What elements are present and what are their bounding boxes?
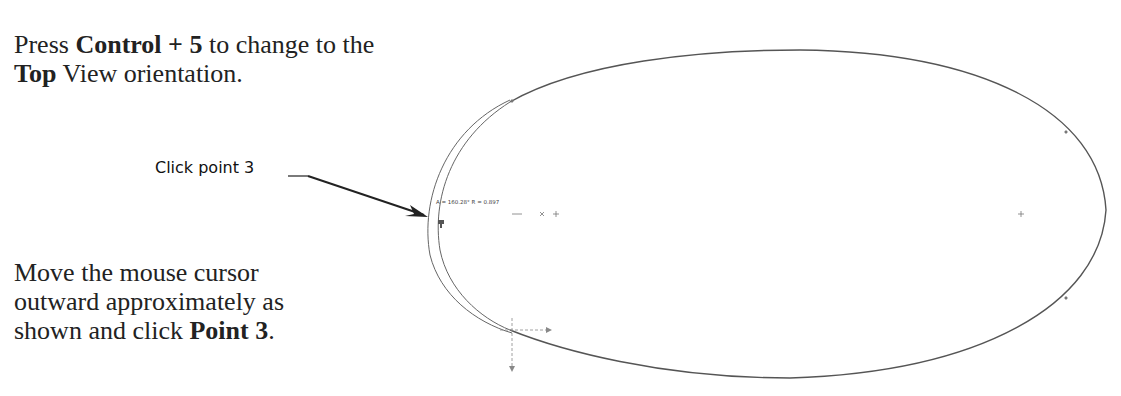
outer-arc-preview[interactable] (428, 100, 512, 333)
callout-arrow (288, 176, 428, 217)
sketch-ellipse[interactable] (510, 50, 1106, 378)
sketch-canvas[interactable] (0, 0, 1121, 396)
arc-cursor-icon (438, 220, 444, 228)
inference-lines (500, 318, 548, 368)
angle-radius-readout: A = 160.28° R = 0.897 (436, 199, 499, 205)
sketch-points (511, 100, 1067, 299)
inner-arc[interactable] (438, 102, 510, 330)
